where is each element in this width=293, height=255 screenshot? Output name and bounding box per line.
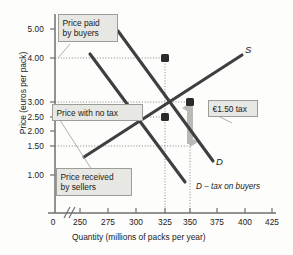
marker-no-tax-equilibrium [161,113,169,121]
y-tick-label-500: 5.00 [12,24,44,34]
leader-price-paid [58,44,70,58]
vertical-guides [165,58,190,213]
x-tick-label-350: 350 [175,217,205,227]
x-tick-label-0: 0 [38,217,68,227]
x-tick-label-400: 400 [230,217,260,227]
y-tick-label-300: 3.00 [12,97,44,107]
y-axis-title: Price (euros per pack) [18,38,28,148]
y-tick-label-250: 2.50 [12,112,44,122]
x-tick-label-425: 425 [257,217,287,227]
marker-price-paid-by-buyers [161,54,169,62]
demand-curve-label: D [216,156,223,167]
x-tick-label-250: 250 [65,217,95,227]
x-tick-label-375: 375 [202,217,232,227]
marker-after-tax-equilibrium [186,98,194,106]
callout-price-received-by-sellers: Price received by sellers [56,168,132,196]
callout-price-with-no-tax: Price with no tax [52,104,143,121]
demand-curve [118,31,213,161]
supply-demand-tax-chart: 5.00 4.00 3.00 2.50 2.00 1.50 1.00 0 250… [0,0,293,255]
leader-price-received [58,117,92,170]
y-tick-label-100: 1.00 [12,170,44,180]
demand-after-tax-curve-label: D – tax on buyers [196,182,260,191]
x-axis-title: Quantity (millions of packs per year) [72,232,206,242]
x-tick-label-275: 275 [93,217,123,227]
supply-curve-label: S [245,44,251,55]
y-tick-label-200: 2.00 [12,126,44,136]
y-tick-label-400: 4.00 [12,53,44,63]
y-tick-label-150: 1.50 [12,141,44,151]
callout-tax-amount: €1.50 tax [208,100,258,117]
x-tick-label-300: 300 [121,217,151,227]
callout-price-paid-by-buyers: Price paid by buyers [58,14,118,42]
